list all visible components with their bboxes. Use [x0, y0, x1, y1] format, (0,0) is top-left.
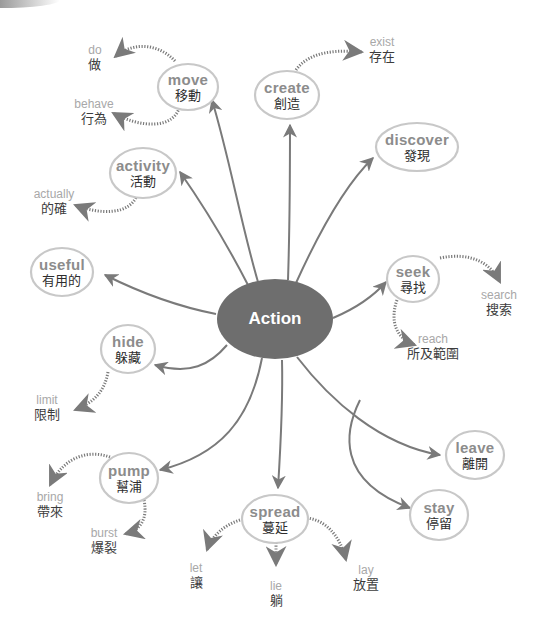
node-create: create 創造	[264, 79, 310, 112]
leaf-zh: 帶來	[37, 504, 64, 520]
leaf-zh: 讓	[190, 575, 203, 591]
edge-discover	[296, 158, 373, 283]
leaf-let: let 讓	[190, 561, 203, 591]
node-zh: 移動	[168, 88, 208, 104]
leaf-limit: limit 限制	[34, 393, 60, 423]
leaf-en: lie	[270, 579, 283, 593]
leaf-zh: 所及範圍	[407, 346, 459, 362]
leaf-en: actually	[34, 187, 75, 201]
node-en: leave	[455, 439, 494, 456]
leaf-zh: 行為	[74, 111, 113, 127]
leaf-en: bring	[37, 490, 64, 504]
node-zh: 停留	[423, 516, 454, 532]
node-useful: useful 有用的	[39, 256, 85, 289]
edge-create-exist	[296, 51, 362, 70]
node-zh: 發現	[385, 148, 449, 164]
leaf-exist: exist 存在	[369, 35, 395, 65]
node-zh: 活動	[116, 174, 170, 190]
leaf-do: do 做	[88, 43, 101, 73]
leaf-en: search	[481, 288, 517, 302]
node-en: stay	[423, 499, 454, 516]
edge-seek	[333, 282, 386, 318]
node-zh: 創造	[264, 96, 310, 112]
leaf-en: reach	[407, 332, 459, 346]
edge-seek-search	[440, 256, 500, 282]
leaf-search: search 搜索	[481, 288, 517, 318]
node-seek: seek 尋找	[396, 263, 431, 296]
leaf-zh: 存在	[369, 49, 395, 65]
edge-activity-actually	[75, 195, 137, 212]
node-en: create	[264, 79, 310, 96]
leaf-zh: 躺	[270, 593, 283, 609]
leaf-en: behave	[74, 97, 113, 111]
node-en: seek	[396, 263, 431, 280]
edge-hide-limit	[75, 372, 108, 410]
node-en: pump	[108, 462, 150, 479]
leaf-en: do	[88, 43, 101, 57]
node-leave: leave 離開	[455, 439, 494, 472]
node-activity: activity 活動	[116, 157, 170, 190]
node-zh: 有用的	[39, 273, 85, 289]
leaf-en: exist	[369, 35, 395, 49]
edge-stay	[349, 400, 410, 508]
node-move: move 移動	[168, 71, 208, 104]
edge-spread	[278, 360, 282, 488]
center-node-label: Action	[249, 309, 302, 329]
edge-pump-burst	[125, 500, 145, 534]
edge-move	[212, 100, 258, 282]
node-hide: hide 躲藏	[112, 333, 144, 366]
leaf-lay: lay 放置	[353, 563, 379, 593]
leaf-bring: bring 帶來	[37, 490, 64, 520]
leaf-actually: actually 的確	[34, 187, 75, 217]
node-en: useful	[39, 256, 85, 273]
node-en: hide	[112, 333, 144, 350]
edge-useful	[105, 275, 216, 314]
leaf-lie: lie 躺	[270, 579, 283, 609]
leaf-en: let	[190, 561, 203, 575]
node-discover: discover 發現	[385, 131, 449, 164]
leaf-burst: burst 爆裂	[91, 526, 118, 556]
edge-create	[288, 125, 290, 280]
node-zh: 躲藏	[112, 350, 144, 366]
node-en: activity	[116, 157, 170, 174]
leaf-en: lay	[353, 563, 379, 577]
leaf-zh: 爆裂	[91, 540, 118, 556]
node-en: spread	[250, 503, 301, 520]
node-en: move	[168, 71, 208, 88]
leaf-en: burst	[91, 526, 118, 540]
node-en: discover	[385, 131, 449, 148]
leaf-zh: 做	[88, 57, 101, 73]
node-zh: 尋找	[396, 280, 431, 296]
node-zh: 幫浦	[108, 479, 150, 495]
edge-activity	[180, 172, 248, 285]
node-zh: 蔓延	[250, 520, 301, 536]
edge-hide	[155, 345, 227, 369]
node-stay: stay 停留	[423, 499, 454, 532]
node-spread: spread 蔓延	[250, 503, 301, 536]
edge-leave	[297, 357, 440, 455]
leaf-zh: 搜索	[481, 302, 517, 318]
edge-spread-lay	[307, 518, 346, 560]
leaf-zh: 放置	[353, 577, 379, 593]
leaf-zh: 限制	[34, 407, 60, 423]
leaf-reach: reach 所及範圍	[407, 332, 459, 362]
edge-pump	[160, 358, 262, 470]
edge-move-behave	[113, 105, 180, 124]
node-pump: pump 幫浦	[108, 462, 150, 495]
leaf-zh: 的確	[34, 201, 75, 217]
leaf-en: limit	[34, 393, 60, 407]
edge-move-do	[115, 46, 175, 61]
leaf-behave: behave 行為	[74, 97, 113, 127]
node-zh: 離開	[455, 456, 494, 472]
edge-spread-let	[207, 520, 240, 550]
